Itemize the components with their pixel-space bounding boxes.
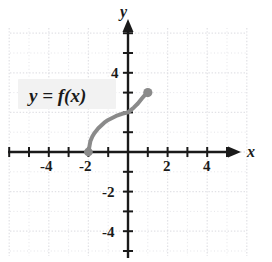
y-axis-arrow-icon: [123, 19, 134, 32]
x-tick-label-2: 2: [163, 159, 171, 174]
x-tick-label-4: 4: [203, 159, 211, 174]
curve-start-point: [84, 148, 93, 157]
x-axis-label: x: [247, 144, 255, 160]
axis-lines: [8, 19, 241, 258]
x-tick-label-neg2: -2: [79, 159, 92, 174]
graph-figure: y = f(x) x y -4 -2 2 4 4 -2 -4: [0, 0, 272, 262]
coordinate-plane: [0, 0, 272, 262]
y-tick-label-4: 4: [111, 66, 119, 81]
y-tick-label-neg2: -2: [102, 185, 115, 200]
x-tick-label-neg4: -4: [40, 159, 53, 174]
function-label: y = f(x): [29, 86, 86, 105]
curve-end-point: [143, 88, 152, 97]
x-axis-arrow-icon: [228, 147, 241, 158]
y-axis-label: y: [120, 4, 127, 20]
y-tick-label-neg4: -4: [102, 225, 115, 240]
